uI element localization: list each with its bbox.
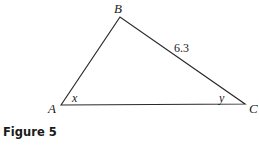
figure-caption: Figure 5	[3, 125, 57, 139]
triangle-abc	[61, 17, 245, 105]
vertex-label-c: C	[249, 101, 258, 116]
angle-label-x: x	[71, 91, 78, 105]
vertex-label-b: B	[114, 1, 122, 16]
vertex-label-a: A	[47, 101, 56, 116]
angle-label-y: y	[218, 91, 225, 105]
side-length-bc: 6.3	[174, 41, 189, 55]
